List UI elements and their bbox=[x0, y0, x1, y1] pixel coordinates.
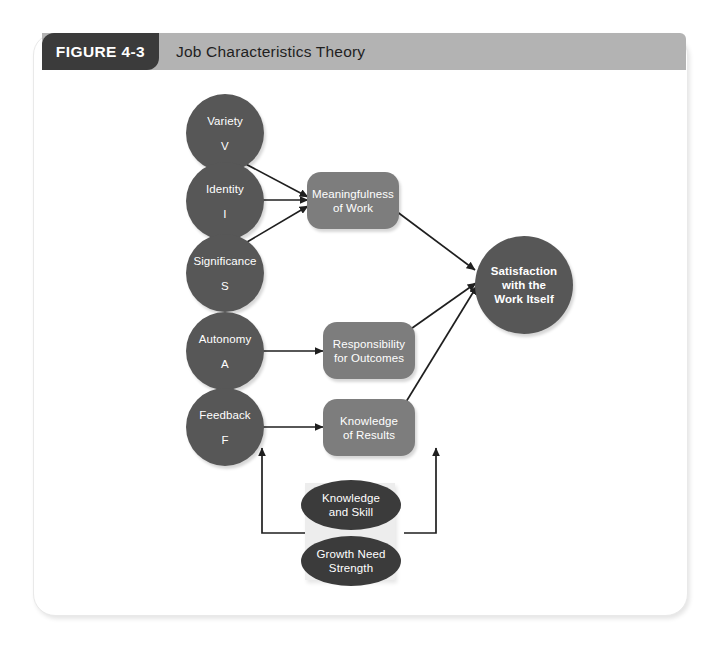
node-satisfaction-line3: Work Itself bbox=[494, 292, 554, 306]
arrow-meaningfulness-to-satisfaction bbox=[396, 211, 475, 270]
moderator-path-right bbox=[404, 448, 436, 533]
node-satisfaction-line2: with the bbox=[502, 278, 546, 292]
node-meaningfulness-line2: of Work bbox=[333, 201, 373, 215]
node-responsibility-line1: Responsibility bbox=[333, 337, 405, 351]
figure-number-tab: FIGURE 4-3 bbox=[42, 33, 159, 70]
node-knowledge-and-skill[interactable]: Knowledge and Skill bbox=[301, 480, 401, 530]
node-meaningfulness-line1: Meaningfulness bbox=[312, 187, 394, 201]
node-significance-abbrev: S bbox=[221, 280, 229, 292]
figure-screenshot: FIGURE 4-3 Job Characteristics Theory bbox=[0, 0, 719, 652]
node-autonomy-abbrev: A bbox=[221, 358, 229, 370]
node-knowledge-of-results[interactable]: Knowledge of Results bbox=[323, 399, 415, 456]
node-variety-abbrev: V bbox=[221, 140, 229, 152]
node-identity[interactable]: Identity I bbox=[186, 162, 264, 240]
node-knowledge-skill-line1: Knowledge bbox=[322, 491, 380, 505]
node-knowledge-results-line1: Knowledge bbox=[340, 414, 398, 428]
node-satisfaction-line1: Satisfaction bbox=[491, 264, 557, 278]
figure-title: Job Characteristics Theory bbox=[176, 33, 365, 70]
node-growth-need-strength[interactable]: Growth Need Strength bbox=[301, 536, 401, 586]
node-autonomy-title: Autonomy bbox=[199, 333, 252, 346]
diagram-canvas: Variety V Identity I Significance S Auto… bbox=[33, 70, 688, 616]
node-knowledge-results-line2: of Results bbox=[343, 428, 395, 442]
node-responsibility-for-outcomes[interactable]: Responsibility for Outcomes bbox=[323, 322, 415, 379]
node-feedback-title: Feedback bbox=[199, 409, 250, 422]
node-significance-title: Significance bbox=[193, 255, 256, 268]
node-identity-title: Identity bbox=[206, 183, 244, 196]
node-variety[interactable]: Variety V bbox=[186, 94, 264, 172]
node-satisfaction-with-work-itself[interactable]: Satisfaction with the Work Itself bbox=[475, 236, 573, 334]
node-knowledge-skill-line2: and Skill bbox=[329, 505, 373, 519]
node-feedback[interactable]: Feedback F bbox=[186, 388, 264, 466]
node-significance[interactable]: Significance S bbox=[186, 234, 264, 312]
node-variety-title: Variety bbox=[207, 115, 243, 128]
node-growth-need-line1: Growth Need bbox=[317, 547, 386, 561]
node-meaningfulness-of-work[interactable]: Meaningfulness of Work bbox=[307, 172, 399, 229]
node-identity-abbrev: I bbox=[223, 208, 226, 220]
node-feedback-abbrev: F bbox=[221, 434, 228, 446]
node-autonomy[interactable]: Autonomy A bbox=[186, 312, 264, 390]
node-growth-need-line2: Strength bbox=[329, 561, 373, 575]
figure-number-label: FIGURE 4-3 bbox=[56, 43, 145, 61]
node-responsibility-line2: for Outcomes bbox=[334, 351, 404, 365]
